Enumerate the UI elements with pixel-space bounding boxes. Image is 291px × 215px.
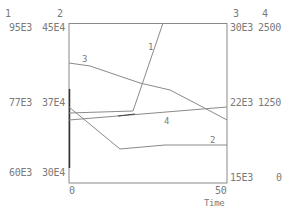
series-3-line — [69, 63, 227, 120]
series-2-label: 2 — [210, 135, 215, 145]
series-1-label: 1 — [148, 42, 153, 52]
series-4-line — [69, 107, 227, 120]
series-4-label: 4 — [164, 116, 169, 126]
plot-area — [0, 0, 291, 215]
series-3-label: 3 — [82, 54, 87, 64]
